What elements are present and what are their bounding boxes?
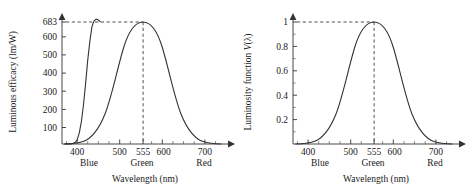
- left-y-tick-300: 300: [43, 87, 58, 97]
- right-x-tick-400: 400: [301, 147, 316, 157]
- right-y-axis-title: Luminosity function V(λ): [243, 34, 254, 131]
- right-axes: [290, 13, 466, 147]
- left-band-label-red: Red: [196, 158, 212, 168]
- left-y-tick-600: 600: [43, 32, 58, 42]
- right-x-tick-700: 700: [429, 147, 444, 157]
- left-x-tick-400: 400: [70, 147, 85, 157]
- left-x-tick-600: 600: [156, 147, 171, 157]
- right-band-label-green: Green: [361, 158, 384, 168]
- left-luminous-efficacy-curve: [64, 19, 100, 144]
- left-y-tick-683: 683: [43, 17, 58, 27]
- right-y-tick-0.2: 0.2: [276, 115, 288, 125]
- luminosity-figure: 683 600 500 400 300 200 100 400 500 555 …: [0, 0, 476, 194]
- left-y-tick-100: 100: [43, 123, 58, 133]
- left-band-label-blue: Blue: [80, 158, 98, 168]
- left-y-axis-arrowhead: [59, 13, 66, 20]
- left-band-label-green: Green: [130, 158, 153, 168]
- right-band-label-red: Red: [427, 158, 443, 168]
- right-band-label-blue: Blue: [311, 158, 329, 168]
- left-chart-svg: 683 600 500 400 300 200 100 400 500 555 …: [0, 0, 238, 194]
- left-y-major-ticks: [62, 22, 66, 128]
- left-y-axis-title: Luminous efficacy (lm/W): [8, 31, 19, 133]
- left-x-tick-700: 700: [198, 147, 213, 157]
- left-x-ticks: [67, 140, 216, 145]
- right-x-tick-555: 555: [367, 147, 382, 157]
- right-x-axis-title: Wavelength (nm): [343, 174, 409, 185]
- chart-panel-luminosity-function: 1 0.8 0.6 0.4 0.2 400 500 555 600 700 Bl…: [238, 0, 476, 194]
- right-y-axis-arrowhead: [290, 13, 297, 20]
- right-y-axis-title-arg: (λ): [243, 34, 254, 45]
- left-x-tick-555: 555: [136, 147, 151, 157]
- right-x-tick-500: 500: [344, 147, 359, 157]
- right-y-tick-0.6: 0.6: [276, 66, 288, 76]
- right-x-tick-600: 600: [387, 147, 402, 157]
- chart-panel-luminous-efficacy: 683 600 500 400 300 200 100 400 500 555 …: [0, 0, 238, 194]
- left-y-tick-500: 500: [43, 50, 58, 60]
- right-y-tick-1: 1: [283, 17, 288, 27]
- left-x-tick-500: 500: [113, 147, 128, 157]
- right-y-axis-title-prefix: Luminosity function: [243, 50, 253, 130]
- right-chart-svg: 1 0.8 0.6 0.4 0.2 400 500 555 600 700 Bl…: [238, 0, 476, 194]
- right-x-axis-arrowhead: [459, 141, 466, 148]
- right-y-major-ticks: [293, 22, 297, 120]
- left-y-tick-400: 400: [43, 68, 58, 78]
- right-y-tick-0.4: 0.4: [276, 91, 288, 101]
- left-axes: [59, 13, 235, 147]
- left-x-axis-arrowhead: [228, 141, 235, 148]
- left-x-axis-title: Wavelength (nm): [112, 174, 178, 185]
- right-y-tick-0.8: 0.8: [276, 42, 288, 52]
- left-y-tick-200: 200: [43, 105, 58, 115]
- right-x-ticks: [298, 140, 447, 145]
